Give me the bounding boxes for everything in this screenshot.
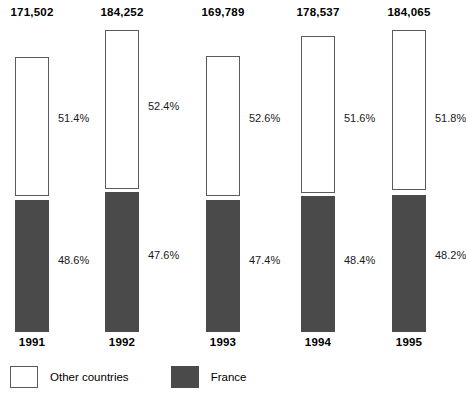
percent-label-other-countries-1991: 51.4%: [58, 112, 89, 124]
total-value-label: 169,789: [202, 6, 245, 18]
percent-label-other-countries-1993: 52.6%: [249, 112, 280, 124]
bar-group-1994: 178,53751.6%48.4%1994: [301, 0, 335, 358]
year-label-1991: 1991: [19, 336, 45, 348]
segment-other-countries-1991: [15, 57, 49, 196]
year-label-1994: 1994: [305, 336, 331, 348]
segment-france-1994: [301, 196, 335, 332]
legend-entry-2: France: [171, 366, 247, 388]
segment-other-countries-1993: [206, 56, 240, 196]
bar-group-1992: 184,25252.4%47.6%1992: [105, 0, 139, 358]
legend-entry-1: Other countries: [10, 366, 129, 388]
percent-label-other-countries-1994: 51.6%: [344, 112, 375, 124]
percent-label-france-1993: 47.4%: [249, 254, 280, 266]
percent-label-france-1995: 48.2%: [435, 249, 466, 261]
percent-label-france-1992: 47.6%: [148, 249, 179, 261]
segment-other-countries-1995: [392, 30, 426, 190]
segment-france-1993: [206, 200, 240, 332]
total-value-label: 171,502: [11, 6, 54, 18]
segment-other-countries-1994: [301, 36, 335, 193]
year-label-1993: 1993: [210, 336, 236, 348]
year-label-1992: 1992: [109, 336, 135, 348]
legend-label: Other countries: [50, 371, 129, 383]
stacked-bar-chart: 171,50251.4%48.6%1991184,25252.4%47.6%19…: [0, 0, 466, 399]
total-value-label: 178,537: [297, 6, 340, 18]
percent-label-france-1991: 48.6%: [58, 254, 89, 266]
percent-label-other-countries-1992: 52.4%: [148, 100, 179, 112]
legend-swatch-other-countries: [10, 366, 38, 388]
year-label-1995: 1995: [396, 336, 422, 348]
chart-legend: Other countriesFrance: [10, 363, 246, 391]
bar-group-1993: 169,78952.6%47.4%1993: [206, 0, 240, 358]
total-value-label: 184,065: [388, 6, 431, 18]
legend-label: France: [211, 371, 247, 383]
bar-group-1995: 184,06551.8%48.2%1995: [392, 0, 426, 358]
legend-swatch-france: [171, 366, 199, 388]
segment-other-countries-1992: [105, 30, 139, 189]
percent-label-other-countries-1995: 51.8%: [435, 112, 466, 124]
total-value-label: 184,252: [101, 6, 144, 18]
segment-france-1992: [105, 192, 139, 332]
percent-label-france-1994: 48.4%: [344, 254, 375, 266]
plot-area: 171,50251.4%48.6%1991184,25252.4%47.6%19…: [0, 0, 466, 358]
segment-france-1991: [15, 200, 49, 332]
bar-group-1991: 171,50251.4%48.6%1991: [15, 0, 49, 358]
segment-france-1995: [392, 195, 426, 332]
